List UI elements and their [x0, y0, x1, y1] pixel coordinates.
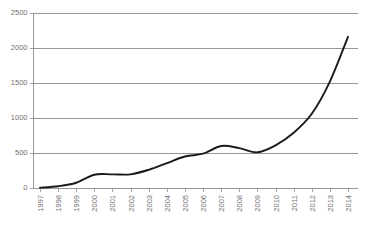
x-tick-label: 2007 [217, 195, 226, 212]
y-tick-label: 1500 [11, 78, 28, 87]
x-tick-label: 2000 [90, 195, 99, 212]
x-tick-label: 2009 [253, 195, 262, 212]
data-series-line [40, 37, 348, 188]
x-tick-label: 2006 [199, 195, 208, 212]
y-tick-label: 0 [23, 183, 27, 192]
x-tick-label: 2014 [344, 195, 353, 212]
y-tick-label: 2500 [11, 8, 28, 17]
x-tick-label: 2005 [181, 195, 190, 212]
chart-canvas: 05001000150020002500 1997199819992000200… [0, 0, 370, 237]
x-tick-label: 2011 [290, 195, 299, 211]
y-tick-label: 2000 [11, 43, 28, 52]
line-chart: 05001000150020002500 1997199819992000200… [0, 0, 370, 237]
x-tick-label: 2013 [326, 195, 335, 212]
y-tick-marks [30, 14, 34, 189]
y-tick-label: 1000 [11, 113, 28, 122]
y-tick-label: 500 [15, 148, 28, 157]
x-tick-label: 2008 [235, 195, 244, 212]
gridlines [34, 14, 359, 154]
x-tick-label: 1999 [72, 195, 81, 212]
x-tick-label: 2002 [127, 195, 136, 212]
y-tick-labels: 05001000150020002500 [11, 8, 28, 192]
x-tick-label: 2003 [145, 195, 154, 212]
x-tick-label: 1998 [54, 195, 63, 212]
x-tick-label: 2001 [108, 195, 117, 212]
x-tick-label: 2004 [163, 195, 172, 212]
x-tick-labels: 1997199819992000200120022003200420052006… [36, 195, 353, 212]
x-tick-label: 2010 [272, 195, 281, 212]
x-tick-label: 2012 [308, 195, 317, 212]
x-tick-label: 1997 [36, 195, 45, 212]
